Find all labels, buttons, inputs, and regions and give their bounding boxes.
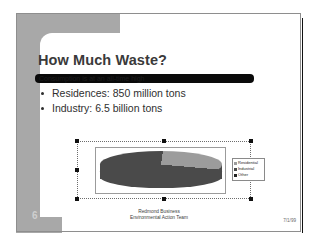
resize-handle-top-center[interactable] xyxy=(162,139,166,143)
bullet-item[interactable]: Industry: 6.5 billion tons xyxy=(40,101,280,116)
resize-handle-bottom-left[interactable] xyxy=(75,197,79,201)
bullet-list[interactable]: Residences: 850 million tons Industry: 6… xyxy=(40,86,280,116)
legend-label: Other xyxy=(238,172,248,178)
resize-handle-bottom-right[interactable] xyxy=(249,197,253,201)
chart-legend[interactable]: Residential Industrial Other xyxy=(232,158,265,181)
bullet-item-label: Residences: 850 million tons xyxy=(52,87,186,99)
legend-item: Other xyxy=(234,172,263,178)
selected-text-highlight-bar[interactable]: Consumption is at an all-time high xyxy=(35,74,254,83)
footer-line-2: Environmental Action Team xyxy=(16,215,302,221)
slide-title[interactable]: How Much Waste? xyxy=(38,52,167,68)
resize-handle-bottom-center[interactable] xyxy=(162,197,166,201)
footer-date: 7/1/99 xyxy=(283,218,296,223)
legend-swatch-other xyxy=(234,174,237,177)
pie-chart-graphic xyxy=(100,151,222,192)
legend-swatch-residential xyxy=(234,162,237,165)
slide-canvas[interactable]: How Much Waste? Consumption is at an all… xyxy=(16,13,302,233)
pie-chart-plot-area[interactable] xyxy=(95,147,226,194)
chart-object[interactable]: Residential Industrial Other xyxy=(77,141,251,199)
bullet-item[interactable]: Residences: 850 million tons xyxy=(40,86,280,101)
resize-handle-top-left[interactable] xyxy=(75,139,79,143)
bullet-item-label: Industry: 6.5 billion tons xyxy=(52,102,162,114)
legend-swatch-industrial xyxy=(234,168,237,171)
bullet-dot-icon xyxy=(41,92,44,95)
resize-handle-middle-left[interactable] xyxy=(75,168,79,172)
footer-text: Redmond Business Environmental Action Te… xyxy=(16,209,302,221)
bullet-dot-icon xyxy=(41,107,44,110)
pie-top-face xyxy=(100,151,222,178)
highlight-bar-text: Consumption is at an all-time high xyxy=(35,74,254,83)
resize-handle-top-right[interactable] xyxy=(249,139,253,143)
